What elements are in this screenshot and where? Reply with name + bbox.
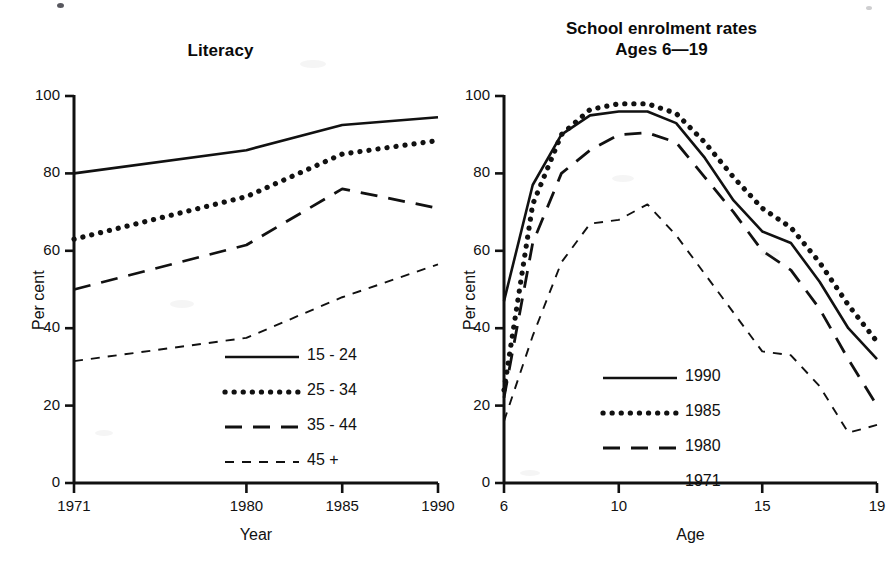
- data-series-line: [504, 111, 877, 359]
- y-tick-label: 0: [442, 473, 490, 490]
- y-tick-label: 80: [12, 163, 60, 180]
- x-tick-label: 6: [464, 497, 544, 514]
- y-tick-label: 100: [12, 86, 60, 103]
- scan-artifact: [300, 60, 326, 68]
- legend-label: 45 +: [307, 451, 339, 469]
- plot-area-enrolment: [441, 0, 882, 564]
- x-tick-label: 1971: [34, 497, 114, 514]
- data-series-line: [504, 204, 877, 432]
- legend-label: 1985: [685, 402, 721, 420]
- scan-artifact: [170, 300, 194, 308]
- legend-label: 1980: [685, 437, 721, 455]
- data-series-line: [74, 117, 438, 173]
- chart-panel-literacy: Literacy Per cent Year 02040608010019711…: [0, 0, 441, 564]
- y-tick-label: 60: [12, 241, 60, 258]
- data-series-line: [504, 133, 877, 406]
- scan-artifact: [612, 175, 634, 182]
- y-tick-label: 100: [442, 86, 490, 103]
- y-tick-label: 20: [442, 396, 490, 413]
- legend-label: 25 - 34: [307, 381, 357, 399]
- scan-artifact: [95, 430, 113, 436]
- x-tick-label: 10: [579, 497, 659, 514]
- x-tick-label: 19: [837, 497, 890, 514]
- scan-artifact: [866, 6, 872, 10]
- scan-artifact: [760, 250, 780, 257]
- legend-label: 1971: [685, 472, 721, 490]
- scan-artifact: [520, 470, 540, 476]
- legend-label: 15 - 24: [307, 346, 357, 364]
- data-series-line: [74, 189, 438, 290]
- y-tick-label: 0: [12, 473, 60, 490]
- y-tick-label: 20: [12, 396, 60, 413]
- x-tick-label: 1985: [302, 497, 382, 514]
- y-tick-label: 40: [12, 318, 60, 335]
- y-tick-label: 40: [442, 318, 490, 335]
- data-series-line: [74, 264, 438, 361]
- x-tick-label: 1980: [206, 497, 286, 514]
- plot-area-literacy: [0, 0, 441, 564]
- y-tick-label: 80: [442, 163, 490, 180]
- x-tick-label: 15: [722, 497, 802, 514]
- scan-artifact: [57, 3, 64, 8]
- legend-label: 35 - 44: [307, 416, 357, 434]
- data-series-line: [504, 104, 877, 390]
- chart-panel-enrolment: School enrolment rates Ages 6—19 Per cen…: [441, 0, 882, 564]
- data-series-line: [74, 141, 438, 240]
- y-tick-label: 60: [442, 241, 490, 258]
- legend-label: 1990: [685, 367, 721, 385]
